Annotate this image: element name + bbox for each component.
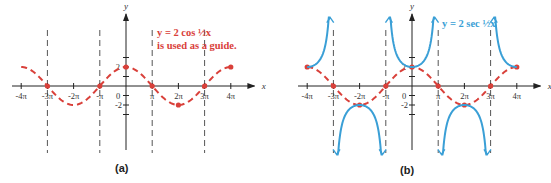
x-tick-label: -2π bbox=[354, 91, 366, 101]
y-axis-label: y bbox=[123, 1, 128, 11]
arrow-icon bbox=[333, 149, 340, 154]
x-tick-label: 4π bbox=[513, 91, 522, 101]
key-point bbox=[383, 83, 388, 88]
arrow-icon bbox=[432, 18, 439, 23]
y-tick-label: -2 bbox=[401, 100, 408, 110]
key-point bbox=[123, 64, 128, 69]
key-point bbox=[176, 102, 181, 107]
secant-branch bbox=[337, 105, 383, 154]
equation-note: is used as a guide. bbox=[157, 40, 237, 51]
x-axis-label: x bbox=[547, 81, 551, 91]
key-point bbox=[488, 83, 493, 88]
x-tick-label: -2π bbox=[68, 91, 80, 101]
arrow-icon bbox=[385, 18, 392, 23]
secant-branch bbox=[307, 18, 330, 67]
panel-b-label: (b) bbox=[400, 164, 414, 176]
secant-branch bbox=[441, 105, 487, 154]
key-point bbox=[45, 83, 50, 88]
x-tick-label: -π bbox=[96, 91, 104, 101]
key-point bbox=[436, 83, 441, 88]
key-point bbox=[228, 64, 233, 69]
figure: xy-4π-3π-2π-π0π2π3π4π2-2y = 2 cos ½xis u… bbox=[0, 0, 551, 183]
secant-branch bbox=[494, 18, 517, 67]
key-point bbox=[331, 83, 336, 88]
arrow-icon bbox=[484, 149, 491, 154]
x-tick-label: 3π bbox=[486, 91, 495, 101]
arrow-icon bbox=[379, 149, 386, 154]
panel-b-secant-graph: xy-4π-3π-2π-π0π2π3π4π2-2y = 2 sec ½x bbox=[298, 1, 551, 154]
x-tick-label: -4π bbox=[16, 91, 28, 101]
x-tick-label: 2π bbox=[460, 91, 469, 101]
x-axis-label: x bbox=[261, 81, 266, 91]
panel-a-cosine-guide: xy-4π-3π-2π-π0π2π3π4π2-2y = 2 cos ½xis u… bbox=[12, 1, 266, 153]
equation-label: y = 2 sec ½x bbox=[442, 18, 496, 29]
y-tick-label: -2 bbox=[115, 100, 122, 110]
x-tick-label: 4π bbox=[227, 91, 236, 101]
key-point bbox=[97, 83, 102, 88]
equation-label: y = 2 cos ½x bbox=[157, 27, 212, 38]
x-tick-label: π bbox=[436, 91, 441, 101]
panel-a-label: (a) bbox=[115, 162, 129, 174]
x-tick-label: -π bbox=[382, 91, 390, 101]
x-tick-label: 3π bbox=[200, 91, 209, 101]
y-axis-label: y bbox=[409, 1, 414, 11]
x-tick-label: π bbox=[150, 91, 155, 101]
x-tick-label: 2π bbox=[174, 91, 183, 101]
arrow-icon bbox=[438, 149, 445, 154]
key-point bbox=[150, 83, 155, 88]
x-tick-label: -4π bbox=[302, 91, 314, 101]
key-point bbox=[202, 83, 207, 88]
